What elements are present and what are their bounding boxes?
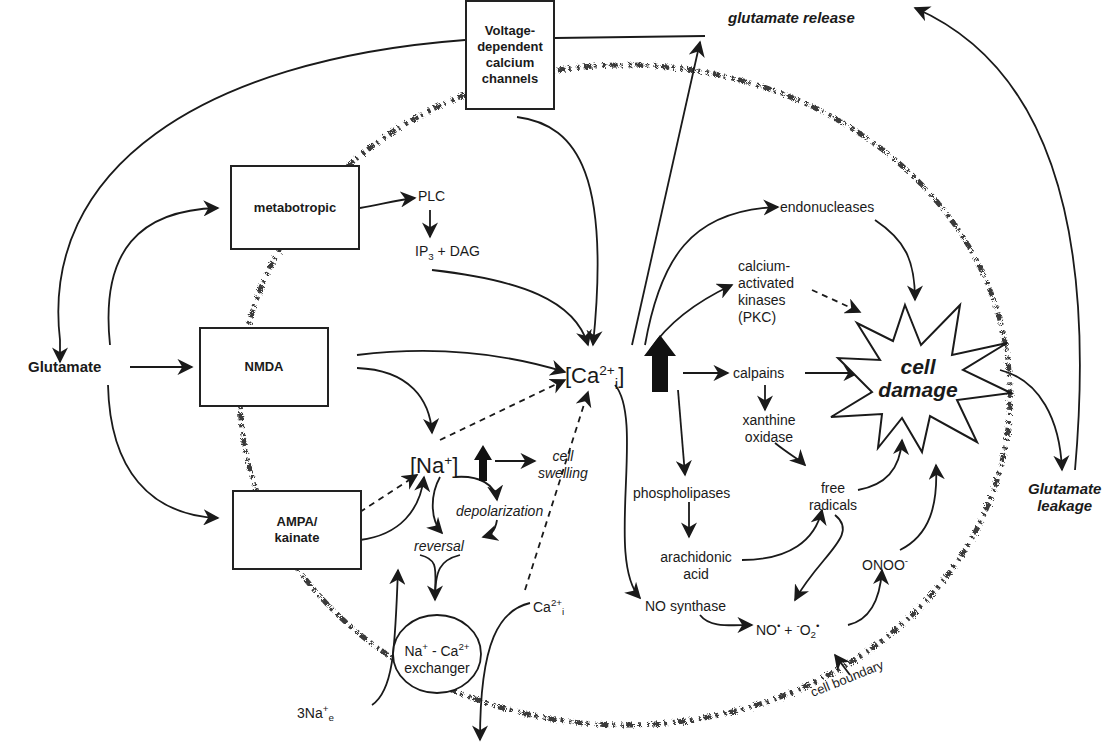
ca-text: [Ca: [565, 363, 599, 388]
ampa-label-2: kainate: [275, 530, 320, 546]
xanthine-oxidase-label: xanthine oxidase: [735, 412, 803, 446]
cell-damage-label: cell damage: [868, 355, 968, 401]
ca-i-small-label: Ca2+i: [533, 594, 564, 620]
arachidonic-line-1: arachidonic: [652, 549, 740, 566]
ca-small-text: Ca: [533, 599, 551, 615]
ampa-kainate-box: AMPA/ kainate: [232, 490, 362, 570]
superoxide-radical-dot: •: [816, 620, 819, 631]
cell-damage-line-2: damage: [868, 378, 968, 401]
ip3-dag-label: IP3 + DAG: [415, 243, 480, 265]
depolarization-label: depolarization: [456, 503, 543, 520]
intracellular-sodium-label: [Na+]: [410, 448, 458, 479]
extracellular-sodium-label: 3Na+e: [297, 700, 334, 726]
exchanger-ca: - Ca: [428, 643, 458, 659]
ca-charge: 2+: [599, 363, 615, 378]
xanthine-line-1: xanthine: [735, 412, 803, 429]
phospholipases-label: phospholipases: [633, 485, 730, 502]
vdcc-label-1: Voltage-: [485, 23, 535, 39]
no-synthase-label: NO synthase: [645, 598, 726, 615]
na-bracket: ]: [452, 453, 458, 478]
cell-damage-line-1: cell: [868, 355, 968, 378]
kinases-line-1: calcium-: [738, 258, 794, 275]
glutamate-leakage-label: Glutamate leakage: [1028, 480, 1101, 514]
kinases-line-2: activated: [738, 275, 794, 292]
exchanger-na: Na: [404, 643, 422, 659]
exchanger-line-2: exchanger: [398, 660, 476, 677]
vdcc-label-3: calcium: [486, 55, 534, 71]
reversal-label: reversal: [414, 538, 464, 555]
kinases-line-4: (PKC): [738, 309, 794, 326]
ca-small-charge: 2+: [551, 597, 562, 608]
intracellular-calcium-label: [Ca2+i]: [565, 358, 624, 397]
exchanger-line-1: Na+ - Ca2+: [398, 638, 476, 660]
vdcc-box: Voltage- dependent calcium channels: [465, 0, 555, 110]
arachidonic-line-2: acid: [652, 566, 740, 583]
ip3-text: IP: [415, 243, 428, 259]
three-na-subscript: e: [328, 712, 333, 723]
calpains-label: calpains: [733, 365, 784, 382]
dag-text: + DAG: [434, 243, 480, 259]
onoo-charge: -: [905, 555, 908, 566]
xanthine-line-2: oxidase: [735, 429, 803, 446]
ampa-label-1: AMPA/: [277, 514, 318, 530]
free-radicals-line-2: radicals: [800, 497, 866, 514]
sodium-increase-arrow: [474, 445, 492, 481]
kinases-label: calcium- activated kinases (PKC): [738, 258, 794, 326]
superoxide-o: O: [800, 622, 811, 638]
no-superoxide-label: NO• + -O2•: [756, 617, 819, 643]
na-text: [Na: [410, 453, 444, 478]
no-text: NO: [756, 622, 777, 638]
plus-text: +: [780, 622, 796, 638]
nmda-box: NMDA: [199, 327, 329, 407]
metabotropic-box: metabotropic: [230, 165, 360, 250]
free-radicals-line-1: free: [800, 480, 866, 497]
calcium-increase-arrow: [644, 335, 676, 392]
cell-swelling-line-1: cell: [538, 448, 588, 465]
vdcc-label-2: dependent: [477, 39, 543, 55]
three-na-text: 3Na: [297, 705, 323, 721]
onoo-text: ONOO: [862, 557, 905, 573]
vdcc-label-4: channels: [482, 71, 538, 87]
kinases-line-3: kinases: [738, 292, 794, 309]
glutamate-leakage-line-2: leakage: [1028, 497, 1101, 514]
nmda-label: NMDA: [245, 359, 284, 375]
cell-swelling-label: cell swelling: [538, 448, 588, 482]
free-radicals-label: free radicals: [800, 480, 866, 514]
arachidonic-acid-label: arachidonic acid: [652, 549, 740, 583]
exchanger-ca-charge: 2+: [458, 641, 469, 652]
ca-small-subscript: i: [562, 606, 564, 617]
glutamate-release-label: glutamate release: [728, 0, 855, 36]
endonucleases-label: endonucleases: [780, 199, 874, 216]
glutamate-leakage-line-1: Glutamate: [1028, 480, 1101, 497]
cell-swelling-line-2: swelling: [538, 465, 588, 482]
peroxynitrite-label: ONOO-: [862, 552, 908, 574]
exchanger-label: Na+ - Ca2+ exchanger: [398, 638, 476, 677]
plc-label: PLC: [418, 188, 445, 205]
glutamate-label: Glutamate: [28, 358, 101, 375]
superoxide-subscript: 2: [811, 629, 816, 640]
ca-bracket: ]: [618, 363, 624, 388]
metabotropic-label: metabotropic: [254, 200, 336, 216]
